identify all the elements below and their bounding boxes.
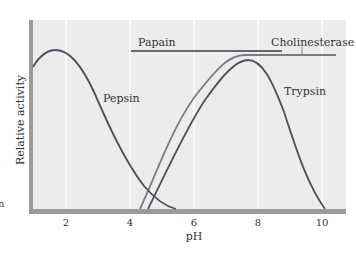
x-axis-bar (29, 209, 346, 214)
y-axis-bar (29, 20, 33, 214)
x-tick-labels: 2 4 6 8 10 (63, 217, 329, 228)
x-axis-title: pH (186, 230, 203, 243)
x-tick-label: 6 (191, 217, 197, 228)
pepsin-label: Pepsin (103, 92, 140, 105)
x-tick-label: 10 (316, 217, 329, 228)
trypsin-label: Trypsin (284, 85, 326, 98)
x-tick-label: 2 (63, 217, 69, 228)
chart-figure: Papain Cholinesterase Pepsin Trypsin 2 4… (0, 0, 356, 256)
x-tick-label: 8 (255, 217, 261, 228)
clipped-text-fragment: n (0, 198, 5, 209)
chart-svg: Papain Cholinesterase Pepsin Trypsin 2 4… (0, 0, 356, 256)
y-axis-title: Relative activity (14, 74, 27, 165)
x-tick-label: 4 (127, 217, 133, 228)
cholinesterase-label: Cholinesterase (271, 36, 354, 49)
papain-label: Papain (138, 36, 176, 49)
